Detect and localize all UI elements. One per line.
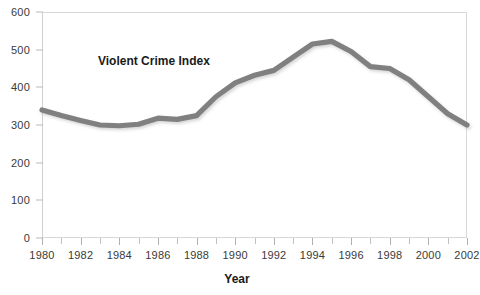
x-tick-mark [235,238,236,245]
x-tick-mark [332,238,333,244]
y-tick-mark [36,87,43,88]
x-axis-title: Year [0,272,474,286]
y-tick-label: 600 [11,6,30,18]
x-tick-label: 1996 [338,249,363,261]
x-tick-label: 2002 [454,249,479,261]
x-tick-label: 1994 [300,249,325,261]
x-tick-label: 1984 [107,249,132,261]
x-tick-mark [390,238,391,245]
y-tick-mark [36,162,43,163]
x-tick-mark [197,238,198,245]
y-tick-label: 400 [11,81,30,93]
x-tick-mark [139,238,140,244]
y-tick-label: 0 [24,232,30,244]
y-tick-label: 100 [11,194,30,206]
x-tick-mark [467,238,468,245]
y-tick-label: 500 [11,44,30,56]
x-tick-label: 1986 [145,249,170,261]
x-tick-label: 2000 [416,249,441,261]
x-tick-mark [312,238,313,245]
y-tick-label: 300 [11,119,30,131]
x-tick-mark [448,238,449,244]
x-tick-mark [351,238,352,245]
x-tick-label: 1988 [184,249,209,261]
x-tick-label: 1990 [223,249,248,261]
x-tick-mark [100,238,101,244]
x-tick-mark [216,238,217,244]
x-tick-mark [119,238,120,245]
x-tick-label: 1998 [377,249,402,261]
x-tick-mark [81,238,82,245]
y-tick-mark [36,200,43,201]
x-tick-mark [274,238,275,245]
x-tick-mark [255,238,256,244]
x-tick-label: 1992 [261,249,286,261]
x-tick-mark [428,238,429,245]
y-tick-mark [36,125,43,126]
x-tick-mark [177,238,178,244]
x-tick-mark [409,238,410,244]
y-tick-mark [36,49,43,50]
y-tick-label: 200 [11,157,30,169]
series-annotation-label: Violent Crime Index [98,54,210,68]
plot-area [42,12,467,238]
y-tick-mark [36,12,43,13]
x-tick-mark [61,238,62,244]
x-tick-label: 1982 [68,249,93,261]
x-tick-mark [42,238,43,245]
x-tick-label: 1980 [29,249,54,261]
x-tick-mark [370,238,371,244]
x-tick-mark [158,238,159,245]
x-tick-mark [293,238,294,244]
